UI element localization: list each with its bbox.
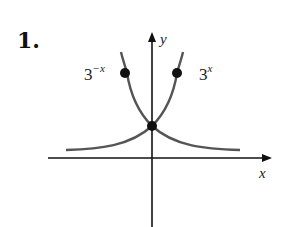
label-3-pow-neg-x: 3−x (84, 62, 105, 84)
point-1-3 (172, 68, 182, 78)
y-axis-label: y (158, 31, 167, 47)
label-3-pow-x: 3x (199, 62, 213, 84)
point-0-1 (147, 121, 157, 131)
x-axis-label: x (258, 165, 266, 181)
exponential-graph: y x 3−x 3x (0, 0, 287, 227)
point-neg1-3 (120, 68, 130, 78)
